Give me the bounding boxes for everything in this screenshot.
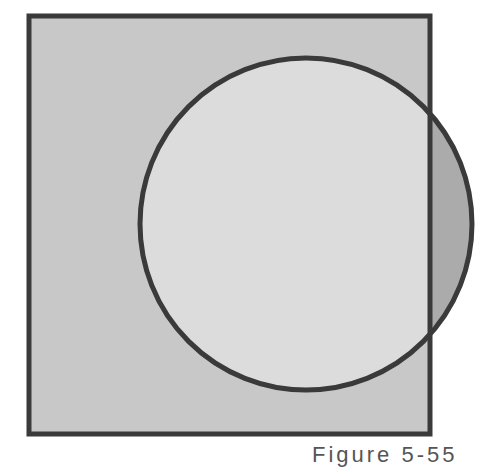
figure-caption: Figure 5-55 — [312, 444, 458, 466]
